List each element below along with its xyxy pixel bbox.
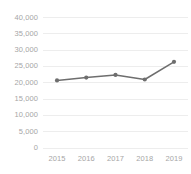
data-point-marker [172, 60, 176, 64]
data-point-marker [55, 78, 59, 82]
data-point-marker [143, 77, 147, 81]
data-series-layer [0, 0, 191, 174]
series-line [57, 62, 174, 81]
data-point-marker [84, 75, 88, 79]
data-point-marker [113, 73, 117, 77]
line-chart: 05,00010,00015,00020,00025,00030,00035,0… [0, 0, 191, 174]
plot-area: 05,00010,00015,00020,00025,00030,00035,0… [0, 0, 191, 174]
